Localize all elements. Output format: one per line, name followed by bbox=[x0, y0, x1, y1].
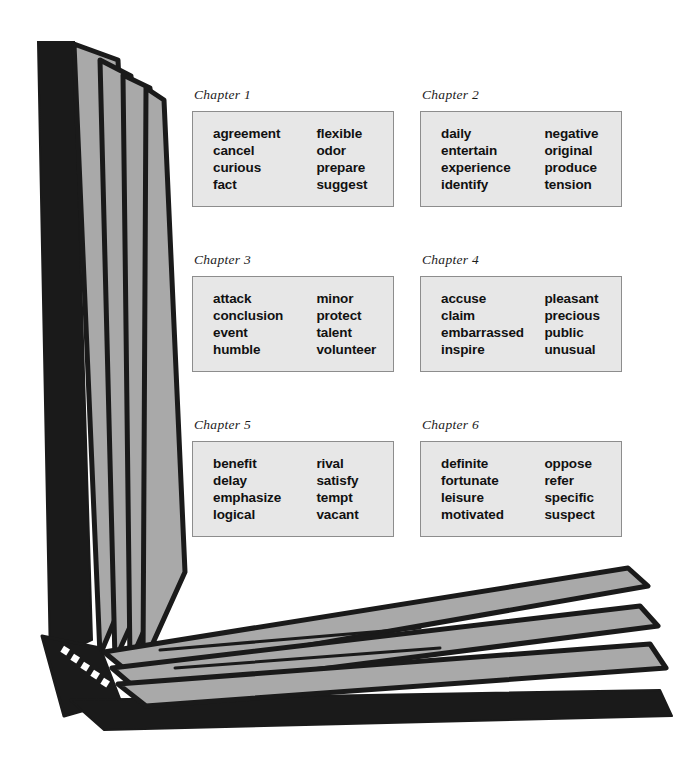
word-item: flexible bbox=[316, 125, 393, 142]
word-item: oppose bbox=[544, 455, 621, 472]
word-item: inspire bbox=[441, 341, 544, 358]
word-item: suspect bbox=[544, 506, 621, 523]
word-item: fact bbox=[213, 176, 316, 193]
word-item: daily bbox=[441, 125, 544, 142]
book-page-edge-lines bbox=[160, 628, 440, 668]
word-column-right: oppose refer specific suspect bbox=[544, 455, 621, 523]
word-item: conclusion bbox=[213, 307, 316, 324]
chapter-label: Chapter 1 bbox=[194, 88, 394, 103]
word-column-left: agreement cancel curious fact bbox=[213, 125, 316, 193]
word-item: original bbox=[544, 142, 621, 159]
chapter-block-1: Chapter 1 agreement cancel curious fact … bbox=[192, 88, 394, 207]
word-column-left: definite fortunate leisure motivated bbox=[441, 455, 544, 523]
chapter-block-5: Chapter 5 benefit delay emphasize logica… bbox=[192, 418, 394, 537]
chapter-label: Chapter 4 bbox=[422, 253, 622, 268]
word-item: talent bbox=[316, 324, 393, 341]
word-item: emphasize bbox=[213, 489, 316, 506]
word-item: vacant bbox=[316, 506, 393, 523]
word-item: delay bbox=[213, 472, 316, 489]
word-item: fortunate bbox=[441, 472, 544, 489]
word-item: accuse bbox=[441, 290, 544, 307]
word-column-right: flexible odor prepare suggest bbox=[316, 125, 393, 193]
word-item: event bbox=[213, 324, 316, 341]
word-item: prepare bbox=[316, 159, 393, 176]
word-item: pleasant bbox=[544, 290, 621, 307]
word-box: daily entertain experience identify nega… bbox=[420, 111, 622, 207]
chapter-label: Chapter 2 bbox=[422, 88, 622, 103]
word-column-left: accuse claim embarrassed inspire bbox=[441, 290, 544, 358]
word-item: refer bbox=[544, 472, 621, 489]
book-page-right-3 bbox=[118, 644, 666, 706]
word-item: precious bbox=[544, 307, 621, 324]
chapter-label: Chapter 6 bbox=[422, 418, 622, 433]
chapter-block-6: Chapter 6 definite fortunate leisure mot… bbox=[420, 418, 622, 537]
word-item: leisure bbox=[441, 489, 544, 506]
book-page-right-1 bbox=[104, 568, 648, 676]
word-item: negative bbox=[544, 125, 621, 142]
chapter-block-3: Chapter 3 attack conclusion event humble… bbox=[192, 253, 394, 372]
word-item: identify bbox=[441, 176, 544, 193]
book-spine-left bbox=[38, 42, 92, 660]
word-column-left: daily entertain experience identify bbox=[441, 125, 544, 193]
chapter-row: Chapter 1 agreement cancel curious fact … bbox=[192, 88, 622, 207]
word-column-right: pleasant precious public unusual bbox=[544, 290, 621, 358]
word-item: attack bbox=[213, 290, 316, 307]
word-item: tempt bbox=[316, 489, 393, 506]
word-item: curious bbox=[213, 159, 316, 176]
word-item: motivated bbox=[441, 506, 544, 523]
book-stitching bbox=[60, 646, 110, 688]
word-box: definite fortunate leisure motivated opp… bbox=[420, 441, 622, 537]
book-page-left-1 bbox=[74, 44, 140, 655]
word-item: suggest bbox=[316, 176, 393, 193]
word-item: humble bbox=[213, 341, 316, 358]
word-box: benefit delay emphasize logical rival sa… bbox=[192, 441, 394, 537]
chapter-block-2: Chapter 2 daily entertain experience ide… bbox=[420, 88, 622, 207]
word-item: experience bbox=[441, 159, 544, 176]
word-box: agreement cancel curious fact flexible o… bbox=[192, 111, 394, 207]
word-item: benefit bbox=[213, 455, 316, 472]
book-page-left-2 bbox=[100, 60, 158, 660]
chapter-row: Chapter 3 attack conclusion event humble… bbox=[192, 253, 622, 372]
word-item: tension bbox=[544, 176, 621, 193]
word-item: cancel bbox=[213, 142, 316, 159]
word-column-left: benefit delay emphasize logical bbox=[213, 455, 316, 523]
word-item: agreement bbox=[213, 125, 316, 142]
chapter-block-4: Chapter 4 accuse claim embarrassed inspi… bbox=[420, 253, 622, 372]
word-item: public bbox=[544, 324, 621, 341]
word-item: rival bbox=[316, 455, 393, 472]
word-item: embarrassed bbox=[441, 324, 544, 341]
book-page-right-2 bbox=[112, 606, 658, 692]
word-item: claim bbox=[441, 307, 544, 324]
word-item: protect bbox=[316, 307, 393, 324]
word-item: minor bbox=[316, 290, 393, 307]
word-item: unusual bbox=[544, 341, 621, 358]
book-cover-bottom bbox=[70, 690, 672, 730]
book-page-left-4 bbox=[143, 88, 185, 665]
word-item: definite bbox=[441, 455, 544, 472]
word-box: accuse claim embarrassed inspire pleasan… bbox=[420, 276, 622, 372]
word-column-left: attack conclusion event humble bbox=[213, 290, 316, 358]
chapter-word-lists: Chapter 1 agreement cancel curious fact … bbox=[192, 88, 622, 537]
word-item: odor bbox=[316, 142, 393, 159]
word-item: entertain bbox=[441, 142, 544, 159]
word-column-right: minor protect talent volunteer bbox=[316, 290, 393, 358]
chapter-label: Chapter 3 bbox=[194, 253, 394, 268]
word-item: satisfy bbox=[316, 472, 393, 489]
word-item: logical bbox=[213, 506, 316, 523]
word-item: produce bbox=[544, 159, 621, 176]
word-column-right: negative original produce tension bbox=[544, 125, 621, 193]
word-column-right: rival satisfy tempt vacant bbox=[316, 455, 393, 523]
word-item: specific bbox=[544, 489, 621, 506]
word-box: attack conclusion event humble minor pro… bbox=[192, 276, 394, 372]
chapter-row: Chapter 5 benefit delay emphasize logica… bbox=[192, 418, 622, 537]
book-page-left-3 bbox=[123, 75, 172, 662]
book-binding-corner bbox=[42, 636, 120, 716]
word-item: volunteer bbox=[316, 341, 393, 358]
chapter-label: Chapter 5 bbox=[194, 418, 394, 433]
